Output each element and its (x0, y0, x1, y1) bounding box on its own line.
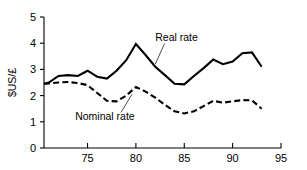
x-tick-label: 80 (130, 152, 142, 164)
x-tick-label: 75 (81, 152, 93, 164)
y-tick-label: 1 (30, 116, 36, 128)
y-tick-label: 3 (30, 63, 36, 75)
real-rate-label: Real rate (155, 31, 198, 43)
x-tick-label: 95 (275, 152, 287, 164)
nominal-rate-label: Nominal rate (75, 110, 135, 122)
y-tick-label: 0 (30, 142, 36, 154)
y-tick-label: 5 (30, 11, 36, 23)
chart-container: 012345 7580859095 $US/£ Real rate Nomina… (0, 0, 307, 170)
y-tick-label: 4 (30, 37, 36, 49)
exchange-rate-line-chart: 012345 7580859095 $US/£ Real rate Nomina… (0, 0, 307, 170)
x-tick-label: 85 (178, 152, 190, 164)
y-axis-title: $US/£ (6, 68, 18, 97)
chart-background (0, 0, 307, 170)
x-tick-label: 90 (227, 152, 239, 164)
y-tick-label: 2 (30, 90, 36, 102)
